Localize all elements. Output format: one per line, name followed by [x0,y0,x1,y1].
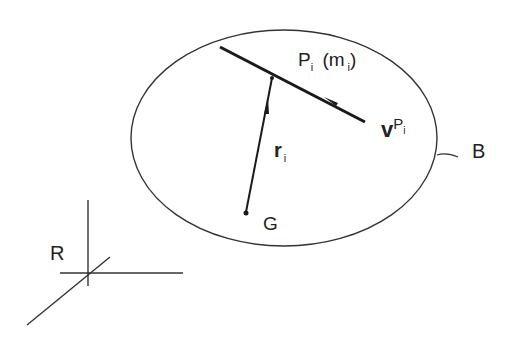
particle-point [270,76,274,80]
particle-label-sub: i [311,61,313,73]
position-label: ri [274,140,286,160]
center-of-mass-label: G [263,214,278,233]
velocity-label: vPi [381,119,406,141]
body-leader-line [437,154,458,157]
diagram-canvas [0,0,514,338]
particle-mass-open: (m [322,49,344,70]
body-label: B [472,141,485,161]
velocity-label-sup-sub: i [403,125,405,136]
particle-mass-sub: i [348,61,350,73]
particle-mass-close: ) [350,49,356,70]
particle-label: Pi (mi) [298,50,356,69]
position-vector [246,78,272,212]
particle-label-main: P [298,49,311,70]
center-of-mass-point [244,211,249,216]
velocity-label-main: v [381,117,393,142]
frame-axis-diagonal [27,257,110,325]
position-label-main: r [274,139,282,161]
reference-frame-label: R [50,243,64,263]
position-label-sub: i [284,152,286,164]
velocity-label-sup: P [393,115,403,132]
